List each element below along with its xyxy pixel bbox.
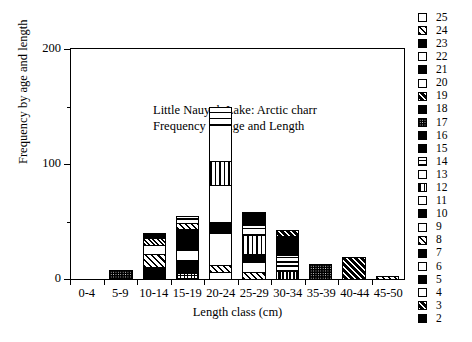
legend-label: 9 — [436, 221, 442, 233]
stacked-bar[interactable] — [176, 216, 199, 279]
legend-label: 18 — [436, 103, 448, 115]
bar-segment — [177, 217, 198, 220]
legend-item-5[interactable]: 5 — [418, 273, 466, 286]
y-tick-100 — [64, 164, 71, 165]
bar-segment — [177, 220, 198, 223]
chart-figure: Frequency by age and length Little Nauyu… — [0, 0, 472, 342]
x-tick-mark — [305, 280, 306, 285]
legend-label: 19 — [436, 90, 448, 102]
legend-item-8[interactable]: 8 — [418, 234, 466, 247]
legend-item-15[interactable]: 15 — [418, 142, 466, 155]
legend-item-9[interactable]: 9 — [418, 221, 466, 234]
legend-swatch-icon — [418, 157, 427, 166]
x-tick-mark — [171, 280, 172, 285]
bar-segment — [144, 246, 165, 255]
bar-segment — [144, 234, 165, 239]
bar-segment — [210, 266, 231, 273]
legend-item-20[interactable]: 20 — [418, 76, 466, 89]
bar-segment — [243, 236, 264, 255]
bar-slot — [237, 49, 270, 279]
legend-swatch-icon — [418, 65, 427, 74]
legend-item-16[interactable]: 16 — [418, 129, 466, 142]
legend-label: 4 — [436, 287, 442, 299]
bar-segment — [177, 251, 198, 261]
legend-item-7[interactable]: 7 — [418, 247, 466, 260]
bar-segment — [243, 255, 264, 263]
legend-item-21[interactable]: 21 — [418, 63, 466, 76]
legend-swatch-icon — [418, 275, 427, 284]
legend-item-10[interactable]: 10 — [418, 207, 466, 220]
legend-item-12[interactable]: 12 — [418, 181, 466, 194]
x-axis-label-0-4: 0-4 — [70, 286, 104, 301]
bar-segment — [310, 265, 331, 279]
bar-segment — [144, 268, 165, 279]
legend-label: 14 — [436, 156, 448, 168]
legend-swatch-icon — [418, 92, 427, 101]
bar-slot — [271, 49, 304, 279]
stacked-bar[interactable] — [143, 233, 166, 279]
x-axis-label-20-24: 20-24 — [204, 286, 238, 301]
plot-area: Little Nauyuk Lake: Arctic charr Frequen… — [70, 48, 405, 280]
bar-slot — [138, 49, 171, 279]
bar-segment — [177, 230, 198, 237]
x-tick-mark — [104, 280, 105, 285]
legend-item-18[interactable]: 18 — [418, 103, 466, 116]
stacked-bar[interactable] — [276, 230, 299, 279]
bar-segment — [144, 255, 165, 267]
x-tick-mark — [372, 280, 373, 285]
stacked-bar[interactable] — [209, 107, 232, 280]
legend-swatch-icon — [418, 196, 427, 205]
x-axis-label-10-14: 10-14 — [137, 286, 171, 301]
legend-item-4[interactable]: 4 — [418, 286, 466, 299]
legend-item-11[interactable]: 11 — [418, 194, 466, 207]
legend-item-24[interactable]: 24 — [418, 24, 466, 37]
legend-item-23[interactable]: 23 — [418, 37, 466, 50]
x-axis-label-35-39: 35-39 — [305, 286, 339, 301]
y-tick-label-200: 200 — [42, 41, 61, 56]
x-axis-label-25-29: 25-29 — [238, 286, 272, 301]
bar-slot — [104, 49, 137, 279]
legend-swatch-icon — [418, 314, 427, 323]
legend-item-19[interactable]: 19 — [418, 90, 466, 103]
legend-swatch-icon — [418, 13, 427, 22]
legend-item-17[interactable]: 17 — [418, 116, 466, 129]
bar-segment — [243, 263, 264, 273]
legend-item-25[interactable]: 25 — [418, 11, 466, 24]
stacked-bar[interactable] — [309, 264, 332, 279]
y-tick-200 — [64, 49, 71, 50]
legend-swatch-icon — [418, 39, 427, 48]
bar-segment — [343, 258, 364, 279]
x-tick-mark — [238, 280, 239, 285]
bar-segment — [177, 261, 198, 275]
x-axis-label-15-19: 15-19 — [171, 286, 205, 301]
bar-segment — [277, 256, 298, 272]
legend-label: 2 — [436, 313, 442, 325]
legend-swatch-icon — [418, 105, 427, 114]
bar-segment — [210, 223, 231, 234]
legend-swatch-icon — [418, 79, 427, 88]
bar-segment — [210, 186, 231, 223]
legend-item-2[interactable]: 2 — [418, 312, 466, 325]
x-axis-label-45-50: 45-50 — [372, 286, 406, 301]
legend-item-13[interactable]: 13 — [418, 168, 466, 181]
legend-label: 11 — [436, 195, 447, 207]
stacked-bar[interactable] — [342, 257, 365, 279]
legend-item-22[interactable]: 22 — [418, 50, 466, 63]
legend-swatch-icon — [418, 236, 427, 245]
bar-series — [71, 49, 404, 279]
legend-item-14[interactable]: 14 — [418, 155, 466, 168]
bar-segment — [210, 126, 231, 163]
legend-swatch-icon — [418, 26, 427, 35]
legend-label: 15 — [436, 143, 448, 155]
legend-label: 7 — [436, 247, 442, 259]
stacked-bar[interactable] — [109, 270, 132, 279]
x-tick-mark — [137, 280, 138, 285]
stacked-bar[interactable] — [376, 276, 399, 279]
stacked-bar[interactable] — [242, 212, 265, 279]
legend-item-6[interactable]: 6 — [418, 260, 466, 273]
bar-segment — [110, 271, 131, 279]
legend-label: 16 — [436, 130, 448, 142]
legend-label: 6 — [436, 261, 442, 273]
legend-swatch-icon — [418, 288, 427, 297]
legend-item-3[interactable]: 3 — [418, 299, 466, 312]
